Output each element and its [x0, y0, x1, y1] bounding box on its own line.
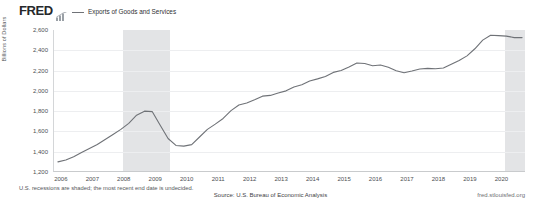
series-line: [58, 35, 522, 162]
y-axis-tick-label: 1,800: [14, 108, 48, 114]
x-axis-tick-label: 2010: [170, 176, 204, 182]
y-axis-title: Billions of Dollars: [1, 0, 7, 82]
x-axis-tick-label: 2011: [201, 176, 235, 182]
y-axis-tick-label: 1,200: [14, 169, 48, 175]
y-axis-tick-label: 2,400: [14, 47, 48, 53]
x-axis-tick-label: 2020: [484, 176, 518, 182]
fred-url[interactable]: fred.stlouisfed.org: [477, 192, 525, 198]
plot-area[interactable]: [53, 30, 525, 172]
chart-legend[interactable]: Exports of Goods and Services: [72, 6, 176, 18]
legend-swatch-exports: [72, 12, 84, 13]
x-axis-tick-label: 2008: [107, 176, 141, 182]
bar-chart-icon: [56, 7, 67, 16]
chart-header: FRED Exports of Goods and Services: [0, 0, 541, 22]
x-axis-tick-label: 2016: [359, 176, 393, 182]
y-axis-tick-label: 2,600: [14, 27, 48, 33]
x-axis-tick-label: 2018: [421, 176, 455, 182]
plot-inner: [54, 30, 525, 171]
source-label: Source: U.S. Bureau of Economic Analysis: [0, 192, 541, 198]
x-axis-tick-label: 2009: [138, 176, 172, 182]
fred-chart-screenshot: FRED Exports of Goods and Services Billi…: [0, 0, 541, 215]
x-axis-tick-label: 2014: [296, 176, 330, 182]
x-axis-tick-label: 2019: [453, 176, 487, 182]
x-axis-tick-label: 2006: [44, 176, 78, 182]
x-axis-tick-label: 2015: [327, 176, 361, 182]
series-layer: [54, 30, 525, 171]
x-axis-tick-label: 2007: [75, 176, 109, 182]
y-axis-tick-label: 2,200: [14, 68, 48, 74]
x-axis-tick-label: 2013: [264, 176, 298, 182]
legend-label-exports: Exports of Goods and Services: [88, 8, 176, 16]
x-axis-tick-label: 2017: [390, 176, 424, 182]
fred-logo[interactable]: FRED: [19, 4, 53, 17]
y-axis-tick-label: 1,400: [14, 149, 48, 155]
x-axis-tick-label: 2012: [233, 176, 267, 182]
y-axis-tick-label: 2,000: [14, 88, 48, 94]
y-axis-tick-label: 1,600: [14, 128, 48, 134]
